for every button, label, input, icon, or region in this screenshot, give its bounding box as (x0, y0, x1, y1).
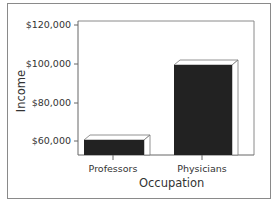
y-axis-title: Income (14, 61, 28, 121)
x-ticks (113, 155, 202, 160)
bar-physicians (174, 60, 238, 155)
y-ticks (74, 25, 78, 141)
x-category-label: Physicians (167, 163, 237, 174)
x-category-label: Professors (78, 163, 148, 174)
y-tick-label: $60,000 (11, 135, 71, 146)
bar-professors (84, 135, 150, 155)
y-tick-label: $120,000 (11, 19, 71, 30)
x-axis-title: Occupation (139, 176, 204, 190)
